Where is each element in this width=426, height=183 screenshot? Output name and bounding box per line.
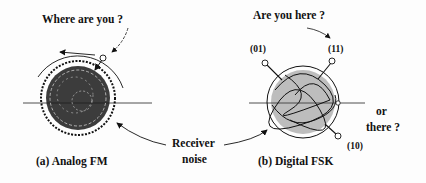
fm-question-label: Where are you ? [42, 14, 123, 26]
fsk-caption: (b) Digital FSK [258, 156, 333, 168]
fsk-alt-question-or: or [376, 106, 387, 118]
fsk-question-label: Are you here ? [253, 10, 325, 22]
fm-vs-fsk-diagram: Where are you ? (a) Analog FM Are you he… [0, 0, 426, 183]
receiver-noise-label-line1: Receiver [172, 138, 215, 150]
analog-fm-panel [23, 28, 166, 145]
fsk-state-11-label: (11) [328, 45, 343, 55]
fsk-alt-question-there: there ? [366, 122, 400, 134]
fsk-state-10-label: (10) [347, 142, 363, 152]
receiver-noise-label-line2: noise [182, 154, 207, 166]
digital-fsk-panel [224, 28, 365, 145]
fm-caption: (a) Analog FM [36, 156, 108, 168]
fm-noise-ball [41, 61, 115, 135]
fsk-state-01-label: (01) [250, 45, 266, 55]
